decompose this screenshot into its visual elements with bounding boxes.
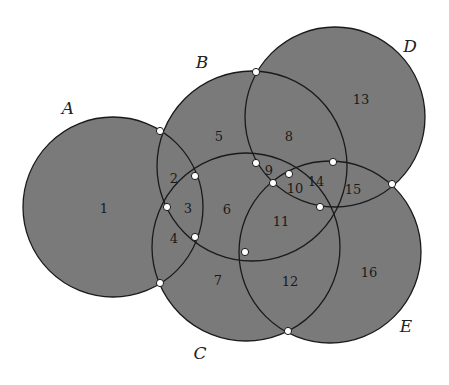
venn-diagram: 12345678910111213141516 ABCDE bbox=[0, 0, 449, 385]
intersection-point bbox=[388, 180, 395, 187]
intersection-point bbox=[241, 248, 248, 255]
intersection-point bbox=[163, 203, 170, 210]
region-label-13: 13 bbox=[353, 92, 370, 107]
region-label-6: 6 bbox=[223, 202, 231, 217]
region-label-14: 14 bbox=[308, 174, 325, 189]
intersection-point bbox=[269, 179, 276, 186]
region-label-16: 16 bbox=[361, 265, 378, 280]
intersection-point bbox=[329, 158, 336, 165]
region-label-2: 2 bbox=[170, 171, 178, 186]
intersection-point bbox=[156, 127, 163, 134]
circle-e-fill bbox=[239, 161, 421, 343]
circle-label-c: C bbox=[193, 343, 206, 363]
intersection-point bbox=[284, 327, 291, 334]
circle-label-d: D bbox=[402, 36, 417, 56]
circle-label-b: B bbox=[195, 52, 209, 72]
region-label-8: 8 bbox=[285, 129, 293, 144]
region-label-3: 3 bbox=[184, 201, 192, 216]
region-label-11: 11 bbox=[273, 214, 290, 229]
intersection-point bbox=[285, 170, 292, 177]
intersection-point bbox=[252, 68, 259, 75]
intersection-point bbox=[252, 159, 259, 166]
region-label-9: 9 bbox=[265, 163, 273, 178]
region-label-7: 7 bbox=[214, 273, 222, 288]
circle-label-e: E bbox=[399, 316, 413, 336]
region-label-5: 5 bbox=[215, 129, 223, 144]
intersection-point bbox=[316, 203, 323, 210]
circle-fills bbox=[23, 27, 425, 343]
intersection-point bbox=[191, 172, 198, 179]
region-label-15: 15 bbox=[345, 182, 362, 197]
region-label-10: 10 bbox=[287, 181, 304, 196]
region-label-4: 4 bbox=[170, 231, 178, 246]
region-label-1: 1 bbox=[100, 201, 108, 216]
intersection-point bbox=[156, 279, 163, 286]
intersection-point bbox=[191, 233, 198, 240]
circle-label-a: A bbox=[60, 98, 74, 118]
region-label-12: 12 bbox=[282, 274, 299, 289]
